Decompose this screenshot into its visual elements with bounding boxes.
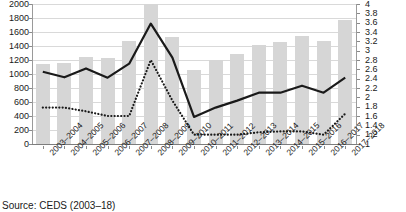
right-axis-tick-mark [357,4,360,5]
right-axis-tick-label: 1.8 [365,102,378,111]
x-axis-tick-label: 2011–2012 [221,151,227,157]
x-axis-labels: 2003–20042004–20052005–20062006–20072007… [0,146,406,202]
right-axis-tick-label: 2.4 [365,74,378,83]
left-axis-tick-label: 1600 [2,28,29,37]
dotted-line [43,60,345,135]
right-axis-tick-mark [357,107,360,108]
x-axis-tick-label: 2010–2011 [199,151,205,157]
right-axis-tick-mark [357,51,360,52]
right-axis-tick-mark [357,13,360,14]
right-axis-tick-label: 3.4 [365,28,378,37]
x-axis-tick-mark [129,146,130,149]
right-axis-tick-label: 1.6 [365,112,378,121]
x-axis-tick-label: 2006–2007 [113,151,119,157]
right-axis-tick-label: 3 [365,46,370,55]
x-axis-tick-mark [151,146,152,149]
right-axis-tick-label: 3.6 [365,18,378,27]
x-axis-tick-label: 2012–2013 [242,151,248,157]
left-axis-tick-mark [29,116,32,117]
chart-container: 0200400600800100012001400160018002000 11… [0,0,406,212]
x-axis-tick-mark [108,146,109,149]
right-axis-tick-label: 4 [365,0,370,9]
left-axis-tick-mark [29,18,32,19]
left-axis-tick-label: 1000 [2,70,29,79]
x-axis-tick-mark [324,146,325,149]
left-axis-tick-label: 2000 [2,0,29,9]
x-axis-tick-label: 2016–2017 [329,151,335,157]
right-axis-tick-mark [357,88,360,89]
right-axis-tick-mark [357,60,360,61]
x-axis-tick-mark [64,146,65,149]
left-axis-tick-label: 600 [2,98,29,107]
left-axis-tick-label: 1400 [2,42,29,51]
left-axis-tick-label: 800 [2,84,29,93]
x-axis-tick-mark [172,146,173,149]
right-axis-tick-label: 2.2 [365,84,378,93]
right-axis-tick-label: 2.8 [365,56,378,65]
x-axis-tick-mark [216,146,217,149]
x-axis-tick-label: 2015–2016 [307,151,313,157]
x-axis-tick-mark [237,146,238,149]
right-axis-tick-label: 2 [365,93,370,102]
x-axis-tick-mark [86,146,87,149]
left-axis-tick-mark [29,144,32,145]
right-axis-tick-mark [357,41,360,42]
x-axis-tick-label: 2009–2010 [177,151,183,157]
left-axis-tick-mark [29,88,32,89]
x-axis-tick-label: 2017–2018 [350,151,356,157]
x-axis-tick-label: 2007–2008 [134,151,140,157]
right-axis-tick-label: 3.8 [365,9,378,18]
left-axis-tick-mark [29,4,32,5]
right-axis-tick-label: 2.6 [365,65,378,74]
right-axis-tick-mark [357,32,360,33]
x-axis-tick-mark [345,146,346,149]
left-axis-tick-label: 200 [2,126,29,135]
left-axis-tick-label: 1200 [2,56,29,65]
left-axis-tick-mark [29,46,32,47]
x-axis-tick-mark [302,146,303,149]
x-axis-tick-mark [43,146,44,149]
left-axis-tick-mark [29,130,32,131]
left-axis-tick-mark [29,32,32,33]
right-axis-tick-mark [357,97,360,98]
x-axis-tick-label: 2013–2014 [264,151,270,157]
left-axis-line [32,4,33,145]
x-axis-tick-mark [194,146,195,149]
left-axis-tick-mark [29,102,32,103]
left-axis-tick-mark [29,74,32,75]
left-axis-tick-mark [29,60,32,61]
x-axis-tick-label: 2003–2004 [48,151,54,157]
source-note: Source: CEDS (2003–18) [2,200,115,211]
solid-line [43,24,345,117]
right-axis-tick-label: 3.2 [365,37,378,46]
right-axis-tick-mark [357,79,360,80]
left-axis-tick-label: 1800 [2,14,29,23]
x-axis-tick-label: 2008–2009 [156,151,162,157]
x-axis-tick-mark [259,146,260,149]
left-axis-tick-label: 400 [2,112,29,121]
right-axis-tick-mark [357,69,360,70]
x-axis-tick-mark [280,146,281,149]
x-axis-tick-label: 2004–2005 [69,151,75,157]
right-axis-tick-mark [357,116,360,117]
right-axis-tick-mark [357,23,360,24]
x-axis-tick-label: 2005–2006 [91,151,97,157]
x-axis-tick-label: 2014–2015 [285,151,291,157]
